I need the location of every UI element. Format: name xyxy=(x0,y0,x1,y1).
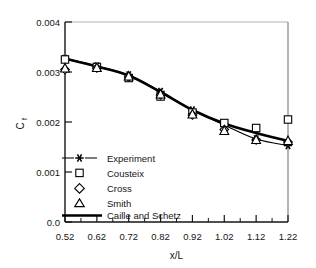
y-axis-title-subscript: f xyxy=(21,118,28,120)
y-tick-label-0: 0.0 xyxy=(47,217,60,228)
legend-label-experiment: Experiment xyxy=(107,153,155,164)
legend-label-caille-and-schetz: Caille and Schetz xyxy=(107,210,181,221)
x-tick-label-5: 1.02 xyxy=(215,231,234,242)
x-tick-label-4: 0.92 xyxy=(183,231,202,242)
y-tick-label-3: 0.003 xyxy=(36,67,60,78)
legend-label-cross: Cross xyxy=(107,183,132,194)
legend-label-smith: Smith xyxy=(107,198,131,209)
y-tick-label-4: 0.004 xyxy=(36,17,60,28)
legend-label-cousteix: Cousteix xyxy=(107,168,144,179)
y-tick-label-1: 0.001 xyxy=(36,167,60,178)
y-axis-title-main: C xyxy=(15,122,26,129)
y-tick-label-2: 0.002 xyxy=(36,117,60,128)
x-tick-label-0: 0.52 xyxy=(56,231,75,242)
x-tick-label-6: 1.12 xyxy=(247,231,266,242)
x-axis-title: x/L xyxy=(170,250,184,261)
skin-friction-chart: 0.0 0.001 0.002 0.003 0.004 0.52 0.62 0.… xyxy=(0,0,316,268)
square-icon xyxy=(252,124,259,131)
x-tick-label-3: 0.82 xyxy=(151,231,170,242)
square-icon xyxy=(61,56,68,63)
x-tick-label-7: 1.22 xyxy=(279,231,298,242)
chart-figure: 0.0 0.001 0.002 0.003 0.004 0.52 0.62 0.… xyxy=(0,0,316,268)
square-icon xyxy=(284,116,291,123)
chart-background xyxy=(0,0,316,268)
x-tick-label-1: 0.62 xyxy=(88,231,107,242)
x-tick-label-2: 0.72 xyxy=(119,231,138,242)
